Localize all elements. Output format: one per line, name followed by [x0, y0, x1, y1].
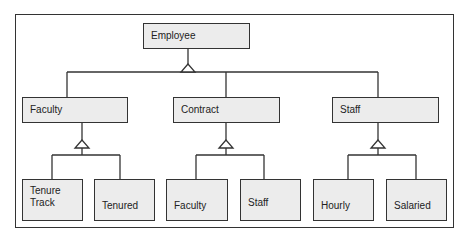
node-tenure-track: Tenure Track	[22, 179, 83, 221]
node-label: Contract	[181, 104, 219, 116]
node-staff: Staff	[332, 97, 439, 123]
node-faculty: Faculty	[22, 97, 128, 123]
node-label: Faculty	[174, 200, 206, 212]
node-label-line2: Track	[30, 197, 55, 209]
inheritance-triangle-icon	[181, 64, 195, 72]
node-label-line1: Tenure	[30, 185, 61, 197]
node-tenured: Tenured	[94, 179, 155, 221]
inheritance-triangle-icon	[75, 140, 89, 148]
inheritance-triangle-icon	[219, 140, 233, 148]
node-contract-faculty: Faculty	[166, 179, 228, 221]
node-contract-staff: Staff	[240, 179, 301, 221]
node-label: Tenured	[102, 200, 138, 212]
node-hourly: Hourly	[313, 179, 374, 221]
inheritance-triangle-icon	[371, 140, 385, 148]
node-contract: Contract	[173, 97, 280, 123]
node-label: Hourly	[321, 200, 350, 212]
node-label: Staff	[248, 197, 268, 209]
node-employee: Employee	[143, 23, 250, 49]
node-label: Faculty	[30, 104, 62, 116]
node-label: Employee	[151, 30, 195, 42]
node-label: Staff	[340, 104, 360, 116]
node-label: Salaried	[394, 200, 431, 212]
node-salaried: Salaried	[386, 179, 447, 221]
